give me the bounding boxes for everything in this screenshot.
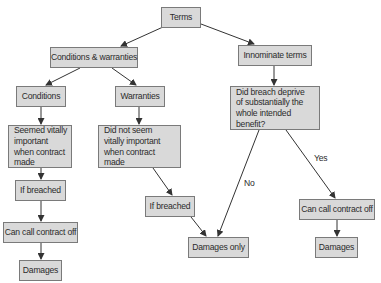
- node-innominate-terms: Innominate terms: [238, 45, 312, 66]
- node-damages-left: Damages: [19, 260, 62, 281]
- edge-label-no: No: [244, 178, 255, 188]
- node-can-call-contract-off-left: Can call contract off: [3, 222, 78, 243]
- node-conditions: Conditions: [16, 86, 66, 107]
- edge-label-yes: Yes: [314, 153, 327, 163]
- node-damages-right: Damages: [315, 237, 358, 258]
- node-conditions-warranties: Conditions & warranties: [50, 47, 138, 68]
- node-if-breached-middle: If breached: [145, 196, 195, 217]
- node-did-not-seem-vitally-important: Did not seem vitally important when cont…: [98, 125, 181, 168]
- node-did-breach-deprive: Did breach deprive of substantially the …: [230, 86, 320, 130]
- node-terms: Terms: [161, 7, 201, 28]
- node-if-breached-left: If breached: [15, 180, 66, 201]
- node-warranties: Warranties: [115, 86, 165, 107]
- node-damages-only: Damages only: [188, 237, 249, 258]
- node-can-call-contract-off-right: Can call contract off: [299, 199, 375, 220]
- node-seemed-vitally-important: Seemed vitally important when contract m…: [8, 125, 72, 168]
